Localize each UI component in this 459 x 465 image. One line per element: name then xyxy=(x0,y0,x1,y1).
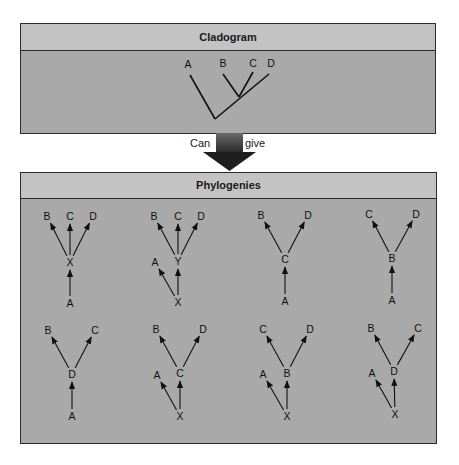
cladogram-panel: Cladogram xyxy=(20,23,436,134)
cladogram-title: Cladogram xyxy=(21,24,435,51)
phylogenies-panel: Phylogenies xyxy=(20,172,437,444)
phylogenies-title: Phylogenies xyxy=(21,173,436,199)
connector-label-can: Can xyxy=(190,137,210,149)
connector-label-give: give xyxy=(245,137,265,149)
